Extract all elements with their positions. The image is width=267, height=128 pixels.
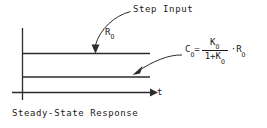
equation-right-side: ·RO bbox=[231, 44, 246, 57]
numerator-k-base: K bbox=[210, 37, 215, 47]
equation-equals-sign: = bbox=[194, 44, 199, 54]
equation-co-subscript: O bbox=[190, 51, 194, 59]
figure-caption: Steady-State Response bbox=[12, 108, 138, 118]
fraction-numerator: KO bbox=[207, 38, 222, 50]
equation-leader-arrowhead bbox=[133, 66, 143, 75]
ro-callout-subscript: O bbox=[110, 33, 114, 41]
ro-callout-label: RO bbox=[105, 27, 114, 40]
fraction-denominator: 1+KO bbox=[203, 51, 227, 63]
time-axis-label: t bbox=[157, 87, 162, 97]
equation-ro-base: R bbox=[236, 44, 241, 54]
steady-state-response-figure: Step Input RO t CO= KO 1+KO ·RO Steady-S… bbox=[0, 0, 267, 128]
numerator-k-subscript: O bbox=[216, 43, 220, 51]
step-input-leader-arrowhead bbox=[92, 45, 100, 54]
denominator-subscript: O bbox=[221, 58, 225, 66]
output-equation: CO= KO 1+KO ·RO bbox=[185, 38, 246, 64]
equation-fraction: KO 1+KO bbox=[202, 38, 228, 64]
step-input-label: Step Input bbox=[133, 4, 193, 14]
equation-ro-subscript: O bbox=[242, 51, 246, 59]
denominator-base: 1+K bbox=[205, 51, 221, 61]
equation-leader-curve bbox=[139, 55, 182, 71]
equation-left-side: CO= bbox=[185, 44, 200, 57]
